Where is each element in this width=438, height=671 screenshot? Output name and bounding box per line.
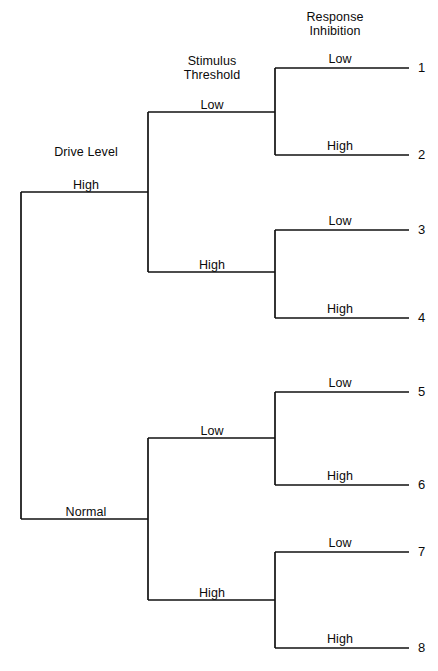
branch-label-stimulus-low-upper: Low — [200, 98, 223, 112]
branch-label-inhibition-low-7: Low — [328, 536, 351, 550]
branch-label-inhibition-high-6: High — [327, 469, 353, 483]
branch-label-inhibition-high-2: High — [327, 139, 353, 153]
branch-high — [148, 112, 275, 272]
header-stimulus-threshold-line2: Threshold — [184, 68, 241, 82]
leaf-number-3: 3 — [418, 223, 425, 237]
branch-label-inhibition-low-5: Low — [328, 376, 351, 390]
branch-label-inhibition-high-8: High — [327, 632, 353, 646]
header-response-inhibition-line1: Response — [306, 10, 363, 24]
leaf-number-6: 6 — [418, 478, 425, 492]
header-response-inhibition: ResponseInhibition — [306, 10, 363, 38]
header-stimulus-threshold: StimulusThreshold — [184, 54, 241, 82]
leaf-number-8: 8 — [418, 641, 425, 655]
branch-label-stimulus-low-lower: Low — [200, 424, 223, 438]
branch-label-drive-normal: Normal — [66, 505, 107, 519]
branch-label-inhibition-high-4: High — [327, 302, 353, 316]
leaf-number-1: 1 — [418, 61, 425, 75]
header-stimulus-threshold-line1: Stimulus — [188, 54, 237, 68]
header-response-inhibition-line2: Inhibition — [309, 24, 360, 38]
branch-label-stimulus-high-lower: High — [199, 586, 225, 600]
branch-label-inhibition-low-1: Low — [328, 52, 351, 66]
leaf-number-2: 2 — [418, 148, 425, 162]
leaf-number-4: 4 — [418, 311, 425, 325]
branch-label-inhibition-low-3: Low — [328, 214, 351, 228]
leaf-number-7: 7 — [418, 545, 425, 559]
root-trunk — [21, 192, 148, 519]
branch-label-stimulus-high-upper: High — [199, 258, 225, 272]
branch-normal — [148, 438, 275, 600]
header-drive-level: Drive Level — [54, 145, 118, 159]
leaf-number-5: 5 — [418, 385, 425, 399]
branch-label-drive-high: High — [73, 178, 99, 192]
tree-diagram: Drive Level StimulusThreshold ResponseIn… — [0, 0, 438, 671]
